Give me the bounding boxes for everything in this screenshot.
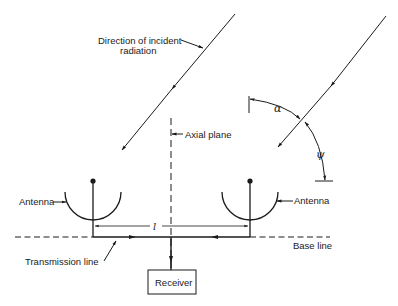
incident-ray-right [278, 16, 386, 147]
antenna-left [65, 178, 121, 237]
antenna-right [222, 178, 278, 237]
transmission-line-label: Transmission line [25, 256, 99, 267]
antenna-left-label: Antenna [19, 196, 55, 207]
receiver-label: Receiver [155, 277, 193, 288]
antenna-right-label: Antenna [294, 195, 330, 206]
interferometer-diagram: Direction of incident radiation Axial pl… [0, 0, 398, 306]
psi-symbol: ψ [316, 148, 325, 161]
incident-label-leader [181, 40, 203, 48]
transmission-line [93, 237, 250, 270]
incident-label-line2: radiation [120, 45, 156, 56]
baseline-length-symbol: l [153, 221, 156, 232]
base-line-label: Base line [293, 240, 332, 251]
transmission-line-leader [104, 241, 116, 261]
alpha-symbol: α [274, 102, 282, 115]
axial-plane-label: Axial plane [185, 129, 231, 140]
